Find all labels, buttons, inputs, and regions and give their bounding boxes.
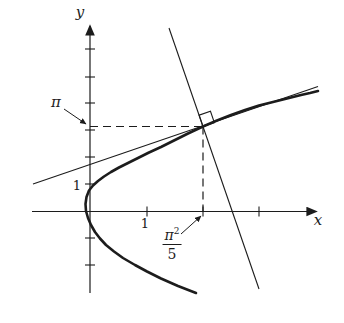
pi-squared-over-5-label: π2 5 [163, 227, 182, 261]
pi-squared-over-5-pointer-arrow [181, 216, 201, 234]
x-axis-label: x [314, 213, 322, 228]
fraction-denominator: 5 [168, 245, 177, 261]
fraction-numerator: π2 [163, 227, 182, 245]
pi-label: π [51, 95, 61, 110]
math-figure: y x π 1 1 π2 5 [0, 0, 344, 323]
pi-pointer-arrow [64, 109, 86, 124]
y-tick-label-1: 1 [73, 179, 81, 192]
normal-line [169, 28, 259, 289]
x-tick-label-1: 1 [141, 217, 149, 230]
plot-svg [0, 0, 344, 323]
y-axis-label: y [76, 5, 84, 20]
